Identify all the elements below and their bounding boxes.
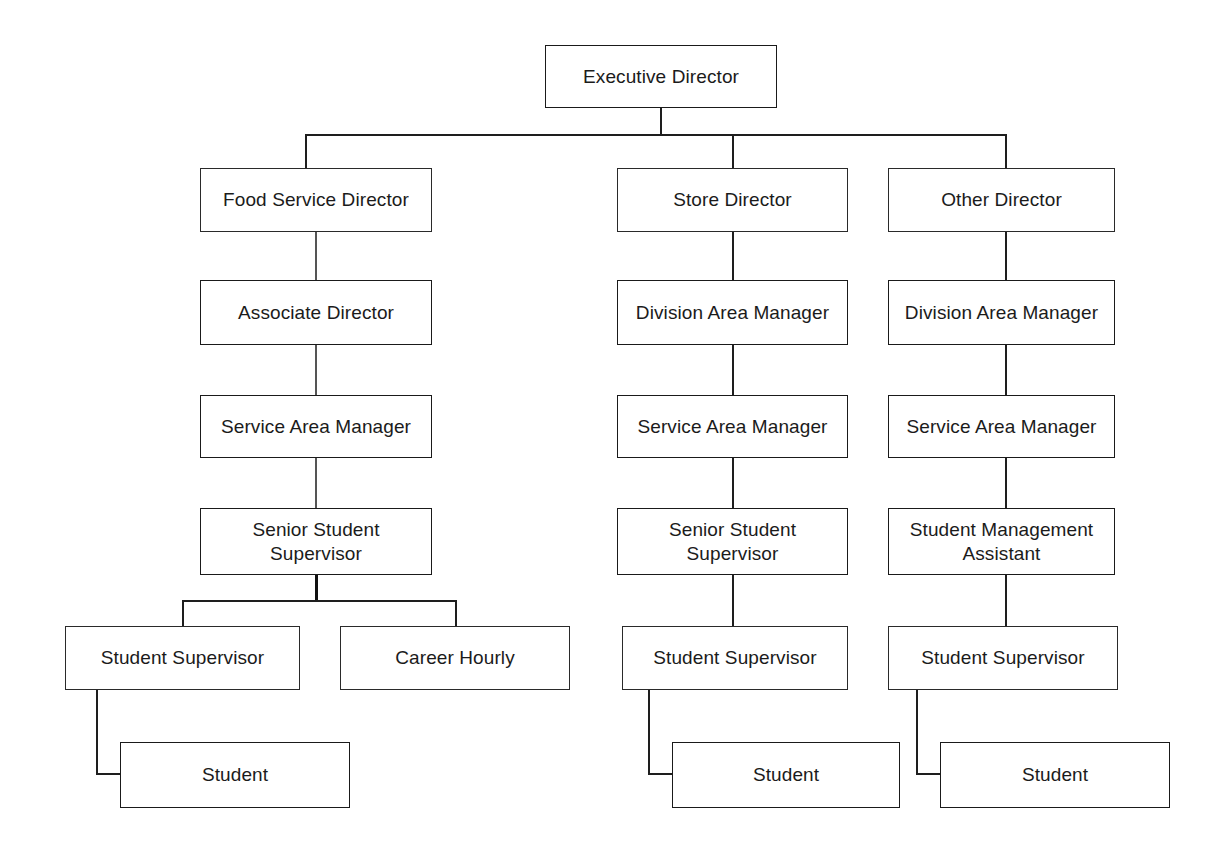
connector-drop-food-service-director	[305, 134, 307, 168]
connector-service-area-to-senior-left	[315, 458, 317, 508]
node-label: Student	[1016, 763, 1094, 786]
node-label: Senior Student Supervisor	[663, 518, 802, 564]
connector-student-supervisor-left-down	[96, 690, 98, 775]
connector-student-supervisor-rt-down	[916, 690, 918, 775]
connector-senior-mid-to-student-supervisor	[732, 575, 734, 626]
node-label: Student	[196, 763, 274, 786]
connector-associate-to-service-area	[315, 345, 317, 395]
node-store-director[interactable]: Store Director	[617, 168, 848, 232]
node-label: Student Management Assistant	[904, 518, 1099, 564]
node-food-service-director[interactable]: Food Service Director	[200, 168, 432, 232]
node-senior-student-supervisor-middle[interactable]: Senior Student Supervisor	[617, 508, 848, 575]
connector-sma-to-student-supervisor	[1005, 575, 1007, 626]
connector-drop-career-hourly	[455, 600, 457, 626]
node-label: Student Supervisor	[95, 646, 270, 669]
node-student-management-assistant[interactable]: Student Management Assistant	[888, 508, 1115, 575]
connector-store-to-division	[732, 232, 734, 280]
connector-drop-store-director	[732, 134, 734, 168]
node-label: Division Area Manager	[899, 301, 1104, 324]
connector-service-area-to-senior-mid	[732, 458, 734, 508]
connector-senior-left-bus	[182, 600, 456, 602]
connector-student-supervisor-left-elbow	[96, 773, 122, 775]
connector-drop-student-supervisor-left	[182, 600, 184, 626]
connector-executive-down	[660, 108, 662, 135]
node-label: Career Hourly	[389, 646, 521, 669]
node-label: Executive Director	[577, 65, 745, 88]
node-label: Student Supervisor	[915, 646, 1090, 669]
node-student-left[interactable]: Student	[120, 742, 350, 808]
connector-executive-bus	[305, 134, 1006, 136]
connector-other-to-division	[1005, 232, 1007, 280]
connector-student-supervisor-rt-elbow	[916, 773, 942, 775]
node-label: Store Director	[667, 188, 798, 211]
connector-service-area-to-sma	[1005, 458, 1007, 508]
node-label: Division Area Manager	[630, 301, 835, 324]
node-student-supervisor-middle[interactable]: Student Supervisor	[622, 626, 848, 690]
node-label: Service Area Manager	[901, 415, 1103, 438]
node-associate-director[interactable]: Associate Director	[200, 280, 432, 345]
node-senior-student-supervisor-left[interactable]: Senior Student Supervisor	[200, 508, 432, 575]
node-label: Other Director	[935, 188, 1068, 211]
node-student-right[interactable]: Student	[940, 742, 1170, 808]
node-service-area-manager-left[interactable]: Service Area Manager	[200, 395, 432, 458]
node-label: Student	[747, 763, 825, 786]
node-label: Student Supervisor	[647, 646, 822, 669]
node-service-area-manager-middle[interactable]: Service Area Manager	[617, 395, 848, 458]
connector-student-supervisor-mid-elbow	[648, 773, 674, 775]
node-division-area-manager-right[interactable]: Division Area Manager	[888, 280, 1115, 345]
node-service-area-manager-right[interactable]: Service Area Manager	[888, 395, 1115, 458]
connector-food-service-to-associate	[315, 232, 317, 280]
connector-division-to-service-area-mid	[732, 345, 734, 395]
node-student-supervisor-right[interactable]: Student Supervisor	[888, 626, 1118, 690]
node-other-director[interactable]: Other Director	[888, 168, 1115, 232]
node-label: Service Area Manager	[215, 415, 417, 438]
connector-division-to-service-area-rt	[1005, 345, 1007, 395]
node-executive-director[interactable]: Executive Director	[545, 45, 777, 108]
org-chart-canvas: Executive Director Food Service Director…	[0, 0, 1226, 852]
node-division-area-manager-middle[interactable]: Division Area Manager	[617, 280, 848, 345]
node-career-hourly[interactable]: Career Hourly	[340, 626, 570, 690]
node-label: Food Service Director	[217, 188, 415, 211]
connector-student-supervisor-mid-down	[648, 690, 650, 775]
node-label: Associate Director	[232, 301, 400, 324]
node-student-middle[interactable]: Student	[672, 742, 900, 808]
node-label: Senior Student Supervisor	[246, 518, 385, 564]
node-label: Service Area Manager	[632, 415, 834, 438]
node-student-supervisor-left[interactable]: Student Supervisor	[65, 626, 300, 690]
connector-senior-left-down	[315, 575, 318, 602]
connector-drop-other-director	[1005, 134, 1007, 168]
